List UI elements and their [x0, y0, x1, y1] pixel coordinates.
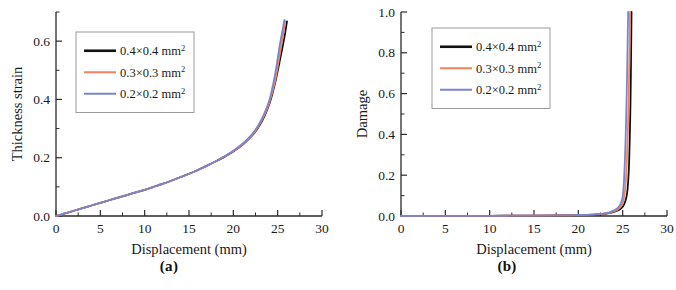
x-axis-title: Displacement (mm) [131, 241, 247, 258]
y-tick-label: 0.6 [33, 34, 50, 49]
x-axis-title: Displacement (mm) [476, 241, 592, 258]
y-axis-title: Thickness strain [9, 66, 25, 161]
x-tick-label: 10 [138, 221, 152, 236]
figure-container: 0510152025300.00.20.40.6Displacement (mm… [0, 0, 676, 290]
legend-label: 0.3×0.3 mm2 [476, 60, 541, 76]
y-tick-label: 0.6 [378, 86, 395, 101]
legend-label-superscript: 2 [181, 64, 185, 74]
x-tick-label: 15 [527, 221, 541, 236]
y-tick-label: 0.2 [378, 168, 395, 183]
legend-label: 0.4×0.4 mm2 [476, 39, 541, 55]
x-tick-label: 25 [616, 221, 630, 236]
legend-label: 0.2×0.2 mm2 [476, 82, 541, 98]
x-tick-label: 30 [660, 221, 674, 236]
x-tick-label: 5 [97, 221, 104, 236]
y-tick-label: 0.0 [378, 209, 395, 224]
y-tick-label: 0.4 [33, 92, 50, 107]
legend-label-superscript: 2 [181, 86, 185, 96]
x-tick-label: 0 [398, 221, 405, 236]
y-tick-label: 1.0 [378, 5, 395, 20]
x-tick-label: 15 [182, 221, 196, 236]
x-tick-label: 5 [442, 221, 449, 236]
panel-b-caption: (b) [338, 258, 676, 275]
chart-a-svg: 0510152025300.00.20.40.6Displacement (mm… [0, 0, 338, 290]
legend-label-superscript: 2 [537, 82, 541, 92]
x-tick-label: 0 [53, 221, 60, 236]
y-tick-label: 0.0 [33, 209, 50, 224]
x-tick-label: 25 [271, 221, 285, 236]
legend-label-superscript: 2 [537, 60, 541, 70]
chart-panel-a: 0510152025300.00.20.40.6Displacement (mm… [0, 0, 338, 290]
x-tick-label: 20 [227, 221, 241, 236]
chart-panel-b: 0510152025300.00.20.40.60.81.0Displaceme… [338, 0, 676, 290]
legend-label: 0.4×0.4 mm2 [120, 43, 185, 59]
y-axis-title: Damage [354, 90, 370, 138]
x-tick-label: 30 [315, 221, 329, 236]
legend-label: 0.2×0.2 mm2 [120, 86, 185, 102]
y-tick-label: 0.2 [33, 150, 50, 165]
legend-label-superscript: 2 [181, 43, 185, 53]
y-tick-label: 0.4 [378, 127, 395, 142]
panel-a-caption: (a) [0, 258, 338, 275]
legend-label: 0.3×0.3 mm2 [120, 64, 185, 80]
chart-b-svg: 0510152025300.00.20.40.60.81.0Displaceme… [338, 0, 676, 290]
legend-label-superscript: 2 [537, 39, 541, 49]
x-tick-label: 10 [483, 221, 497, 236]
y-tick-label: 0.8 [378, 45, 395, 60]
x-tick-label: 20 [572, 221, 586, 236]
